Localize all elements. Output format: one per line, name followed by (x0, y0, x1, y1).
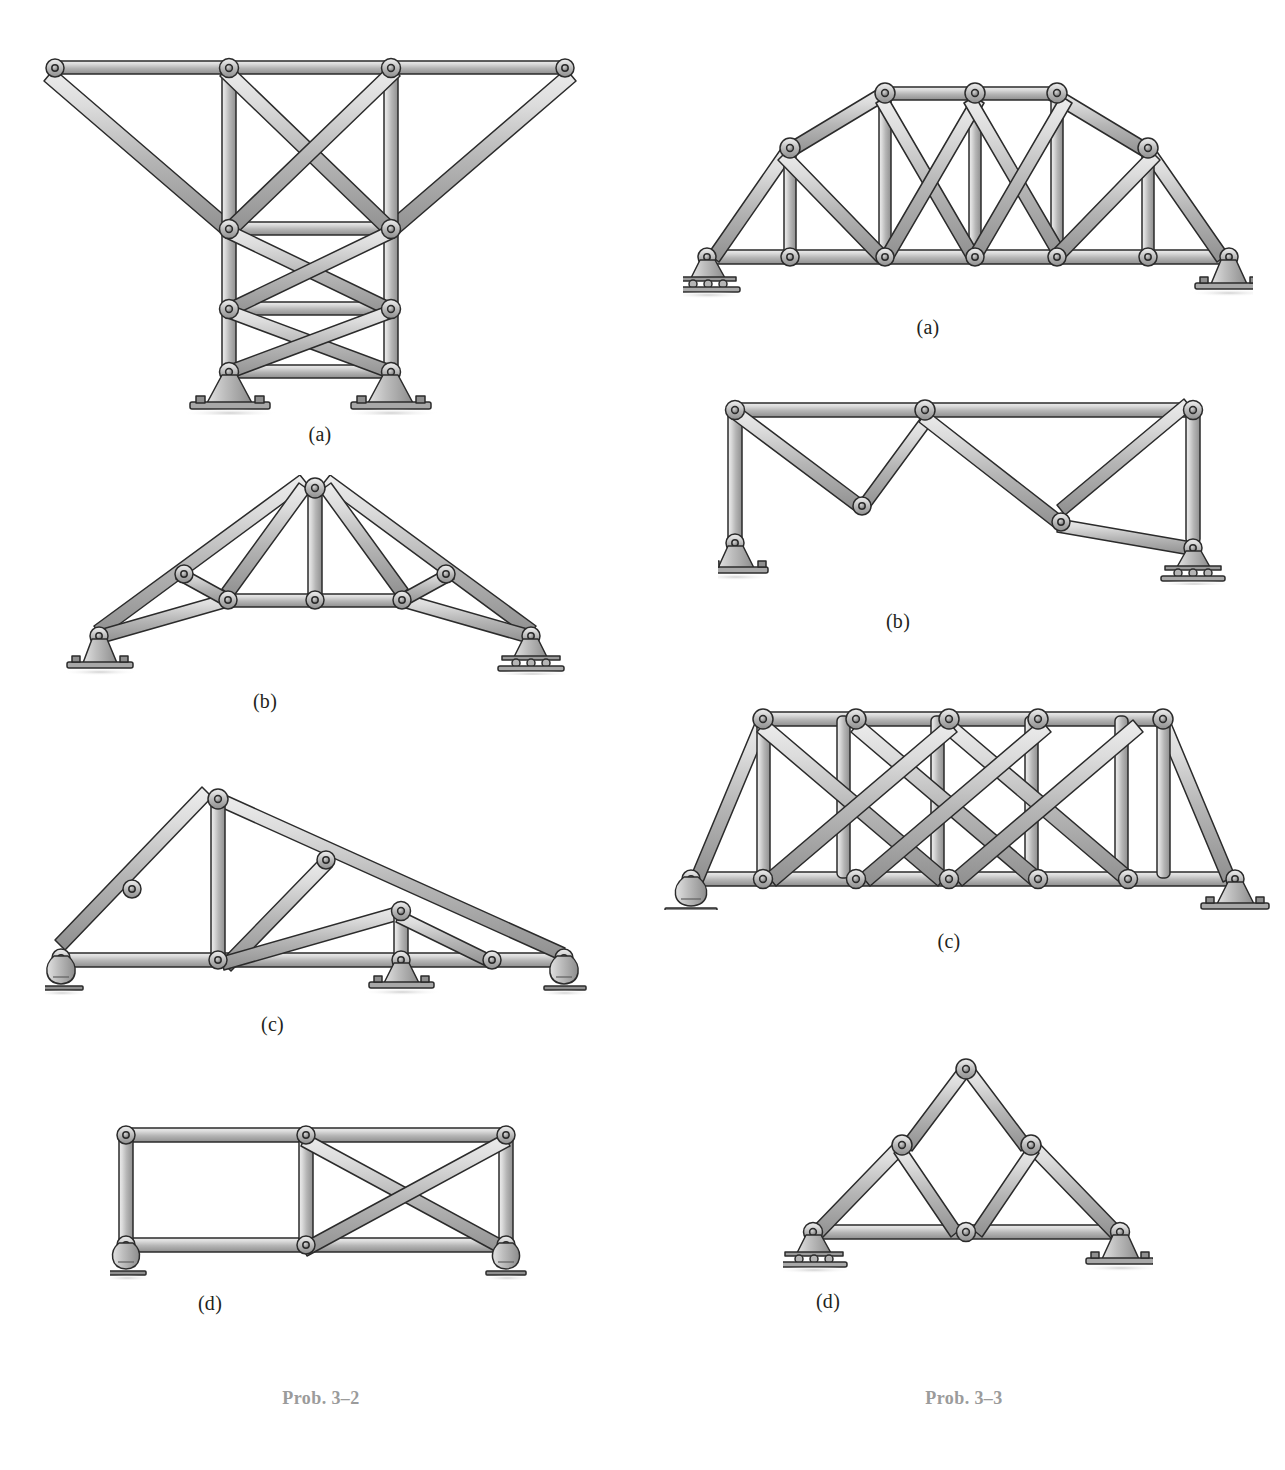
figure-label-d: (d) (0, 1292, 420, 1315)
truss-drawing-two-diagonal (718, 395, 1228, 585)
shadow (62, 669, 138, 676)
figure-prob3-3-d: (d) (783, 1025, 1153, 1275)
member-left-rafter-lower (812, 1139, 908, 1238)
member-web-left (894, 1145, 961, 1237)
member-top-chord (728, 403, 1200, 417)
support-roller-left (783, 1235, 847, 1267)
figure-label-c: (c) (0, 1013, 545, 1036)
support-pin-left (190, 375, 270, 409)
support-roller-right (498, 639, 564, 671)
member-diagonal-right-lower (1057, 519, 1192, 555)
shadow (718, 574, 772, 581)
member-top-chord (755, 712, 1171, 726)
truss-drawing-asymmetric (45, 785, 590, 995)
member-left-cantilever-diagonal (44, 69, 233, 235)
truss-drawing-triangular (783, 1025, 1153, 1275)
problem-caption-left: Prob. 3–2 (0, 1388, 642, 1409)
shadow (182, 409, 278, 415)
support-pin-left (718, 546, 768, 573)
member-strut-level-2 (226, 222, 394, 235)
shadow (362, 989, 442, 996)
member-diagonal-left-upper (859, 415, 932, 510)
figure-label-b: (b) (5, 690, 525, 713)
shadow (1081, 1265, 1153, 1272)
right-column: (a) (643, 0, 1285, 1470)
figure-prob3-2-c: (c) (45, 785, 590, 995)
member-right-post (1186, 405, 1200, 545)
figure-prob3-3-a: (a) (683, 68, 1253, 298)
figure-label-d: (d) (643, 1290, 1013, 1313)
figure-label-c: (c) (643, 930, 1255, 953)
figure-prob3-3-c: (c) (663, 700, 1275, 910)
figure-page: (a) (0, 0, 1285, 1470)
left-column: (a) (0, 0, 642, 1470)
figure-prob3-2-b: (b) (55, 475, 575, 675)
member-diagonal-left (731, 407, 863, 511)
shadow (1189, 290, 1253, 297)
figure-label-a: (a) (643, 316, 1213, 339)
member-right-rafter-lower (1025, 1139, 1121, 1238)
figure-prob3-2-d: (d) (110, 1120, 530, 1280)
member-web-right (972, 1145, 1039, 1237)
member-right-rafter (218, 794, 565, 960)
member-diagonal-right-long (919, 411, 1063, 528)
member-left-post (728, 405, 742, 545)
truss-drawing-rect-frame (110, 1120, 530, 1280)
member-post-6 (1157, 716, 1170, 878)
shadow (343, 409, 439, 415)
support-pin-left (67, 639, 133, 668)
member-center-post (211, 795, 225, 961)
support-pin-right (351, 375, 431, 409)
support-roller-left (683, 260, 740, 292)
figure-label-b: (b) (643, 610, 1153, 633)
joint-pin-group (804, 1059, 1130, 1242)
truss-drawing-tower (30, 55, 610, 415)
member-right-rafter-upper (963, 1066, 1031, 1151)
member-top-chord (52, 61, 568, 74)
truss-drawing-baltimore (663, 700, 1275, 910)
problem-caption-right: Prob. 3–3 (643, 1388, 1285, 1409)
figure-label-a: (a) (30, 423, 610, 446)
figure-prob3-2-a: (a) (30, 55, 610, 415)
member-left-post (119, 1130, 133, 1248)
member-left-rafter-upper (902, 1066, 970, 1151)
truss-drawing-fink (55, 475, 575, 675)
joint-pin-group (46, 59, 574, 382)
truss-drawing-parker (683, 68, 1253, 298)
figure-prob3-3-b: (b) (718, 395, 1228, 585)
member-top-chord-left-incline (787, 88, 887, 156)
support-roller-right (1161, 551, 1225, 581)
member-right-cantilever-diagonal (387, 69, 576, 235)
